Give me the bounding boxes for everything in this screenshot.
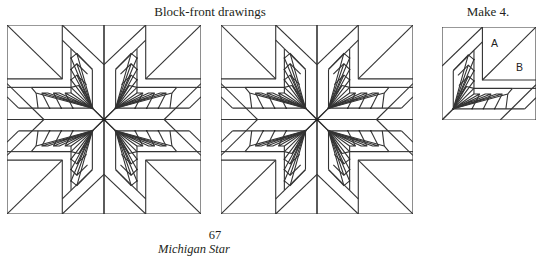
block-drawing-2 [221,25,413,218]
block-caption: Michigan Star [158,242,230,257]
block-front-drawings-heading: Block-front drawings [150,4,270,20]
quarter-unit-drawing: A B [442,27,536,120]
make-count-heading: Make 4. [453,4,523,20]
piece-label-a: A [491,37,498,49]
piece-label-b: B [516,61,523,73]
block-drawing-1 [7,25,201,218]
page-number: 67 [200,228,230,243]
